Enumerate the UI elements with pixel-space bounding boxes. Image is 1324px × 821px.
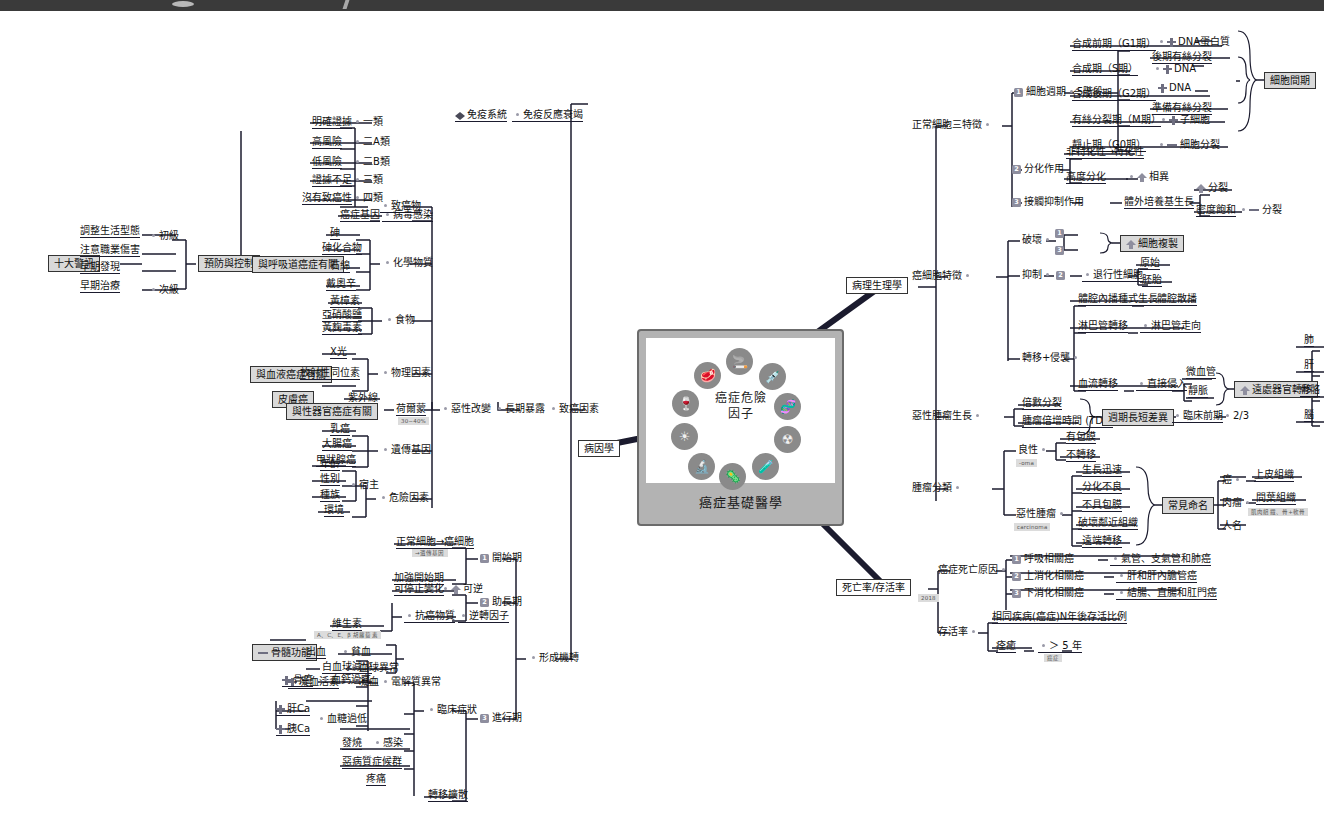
organ-liver: 肝 (1304, 359, 1314, 372)
electrolyte-label: 電解質異常 (380, 676, 441, 687)
naming-row-1-tissue: 間葉組織 (1256, 492, 1296, 505)
stage-3-node: 3進行期 (480, 712, 522, 723)
bone-cancer-label: 骨癌 (282, 674, 313, 687)
lymph-direction-label: 淋巴管走向 (1140, 320, 1201, 333)
branch-mortality-survival[interactable]: 死亡率/存活率 (836, 579, 911, 596)
center-caption: 癌症基礎醫學 (646, 492, 835, 511)
leukopenia-label: 白血球減少 (322, 661, 372, 674)
minus-icon (1249, 209, 1259, 211)
tumor-class-label: 腫瘤分類 (912, 482, 963, 493)
capillary-label: 微血管 (1186, 366, 1216, 379)
up-arrow-icon (1126, 240, 1136, 249)
virus-icon: 🔬 (688, 453, 715, 480)
carcinogen-group-3: 三類 (352, 174, 383, 185)
hypoglycemia-label: 血糖過低 (316, 713, 367, 724)
density-saturation: 密度飽和 (1196, 204, 1236, 217)
survival-note: 癌症 (1044, 654, 1062, 662)
risk-factor-label: 危險因素 (378, 492, 429, 503)
phase-g0-a: 細胞分裂 (1156, 139, 1220, 150)
malignant-suffix: carcinoma (1014, 523, 1050, 531)
hormone-label: 荷爾蒙 (396, 403, 426, 416)
lymph-metastasis-label: 淋巴管轉移 (1078, 320, 1128, 333)
differentiation-arrow: 非特化性→特化性 (1066, 146, 1144, 159)
physical-item-1: 放射性同位素 (300, 367, 360, 380)
stage-2-item-1: 抗癌物質 (404, 610, 455, 623)
food-label: 食物 (384, 314, 415, 325)
death-cause-year: 2018 (918, 594, 939, 602)
carcinogen-group-2: 二B類 (352, 156, 390, 167)
vitamin-label: 維生素 (332, 618, 362, 631)
sex-organ-cancer-note[interactable]: 與性器官癌症有關 (286, 403, 378, 420)
malignant-tumor-label: 惡性腫瘤 (1016, 508, 1067, 519)
survival-label: 存活率 (938, 626, 979, 637)
plus-icon (282, 676, 291, 685)
germ-icon: 🦠 (719, 463, 746, 490)
chemical-icon: 🧪 (752, 453, 779, 480)
pancreas-ca-label: 胰Ca (276, 723, 310, 736)
carcinogen-desc-0: 明確證據 (312, 116, 352, 129)
carcinogen-group-0: 一類 (352, 116, 383, 127)
plus-icon (1163, 65, 1172, 74)
host-item-0: 年齡 (320, 458, 340, 471)
plus-icon (276, 705, 285, 714)
phase-g1-a: DNA蛋白質 (1156, 36, 1230, 47)
phase-g1-name: 合成前期（G1期） (1072, 38, 1156, 51)
prevention-secondary-item-1: 早期治療 (80, 280, 120, 293)
genetic-item-1: 大腸癌 (322, 438, 352, 451)
host-item-2: 種族 (320, 489, 340, 502)
chemical-item-0: 砷 (330, 227, 340, 240)
dna-icon: 🧬 (774, 393, 801, 420)
high-differentiation: 高度分化 (1066, 171, 1106, 184)
minus-icon (258, 652, 268, 654)
genetic-item-0: 乳癌 (330, 423, 350, 436)
malignant-item-4: 遠端轉移 (1082, 535, 1122, 548)
destroy-badge-1: 1 (1055, 227, 1067, 238)
phase-g2-a: DNA (1158, 82, 1191, 93)
organ-brain: 腦 (1304, 409, 1314, 422)
cancer-gene-label: 癌症基因 (340, 209, 380, 222)
mindmap-canvas[interactable]: 癌症危險 因子 🚬 💉 🧬 ☢ 🧪 🦠 🔬 ☀ 🍷 🥩 癌症基礎醫學 病因學 病… (0, 11, 1324, 821)
prevention-secondary-label: 次級 (148, 284, 179, 295)
pain-label: 疼痛 (366, 773, 386, 786)
destroy-label: 破壞 (1022, 234, 1053, 245)
cycle-difference-node[interactable]: 週期長短差異 (1102, 409, 1174, 426)
stage-1-node: 1開始期 (480, 552, 522, 563)
carcinogen-desc-2: 低風險 (312, 156, 342, 169)
malignant-change-label: 惡性改變 (440, 403, 491, 414)
phase-m-a: 子細胞 (1158, 114, 1210, 125)
interphase-bracket-node[interactable]: 細胞間期 (1264, 72, 1316, 89)
formation-label: 形成機轉 (528, 652, 579, 663)
contact-divide: 分裂 (1196, 182, 1228, 193)
stage-1-item-0: 正常細胞→癌細胞 (396, 536, 474, 549)
prevention-primary-item-1: 注意職業傷害 (80, 244, 140, 257)
host-item-1: 性別 (320, 473, 340, 486)
genetic-label: 遺傳基因 (380, 444, 431, 455)
branch-etiology[interactable]: 病因學 (578, 440, 620, 457)
differentiation-diff: 相異 (1126, 171, 1169, 182)
branch-pathophysiology[interactable]: 病理生理學 (846, 277, 908, 294)
prevention-root-node[interactable]: 預防與控制 (198, 255, 260, 272)
benign-label: 良性 (1018, 444, 1049, 455)
immune-system-node: 免疫系統 (455, 109, 507, 122)
fever-label: 發燒 (342, 737, 362, 750)
long-exposure-label: 長期暴露 (494, 403, 545, 414)
organ-lung: 肺 (1304, 334, 1314, 347)
preclinical-label: 臨床前期 (1172, 410, 1223, 423)
vitamin-note: A、C、E、β 胡蘿蔔素 (314, 631, 381, 639)
plus-icon (1158, 84, 1167, 93)
naming-node[interactable]: 常見命名 (1162, 497, 1214, 514)
stage-1-note: →遺傳基因 (412, 549, 448, 557)
inhibit-label: 抑制 (1022, 269, 1053, 280)
vein-label: 靜脈 (1188, 385, 1208, 398)
cell-replication-node[interactable]: 細胞複製 (1120, 235, 1184, 252)
plus-icon (1169, 116, 1178, 125)
chemical-label: 化學物質 (382, 257, 433, 268)
host-label: 宿主 (348, 479, 379, 490)
naming-row-0-tissue: 上皮組織 (1254, 469, 1294, 482)
chemical-item-3: 戴奧辛 (326, 278, 356, 291)
malignant-item-0: 生長迅速 (1082, 464, 1122, 477)
risk-factor-illustration: 癌症危險 因子 🚬 💉 🧬 ☢ 🧪 🦠 🔬 ☀ 🍷 🥩 (646, 338, 835, 483)
death-cause-2-detail: 結腸、直腸和肛門癌 (1116, 587, 1217, 600)
survival-definition: 相同疾病(癌症)N年後存活比例 (992, 611, 1127, 624)
benign-suffix: -oma (1016, 459, 1037, 467)
